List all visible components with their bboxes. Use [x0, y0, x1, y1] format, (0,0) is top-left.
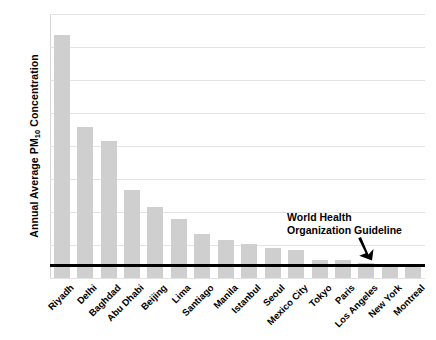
y-axis-title-suffix: Concentration — [28, 54, 40, 129]
bar — [312, 260, 328, 278]
chart-figure: Annual Average PM10 Concentration 400350… — [0, 0, 436, 340]
bar — [194, 234, 210, 278]
who-annotation-arrow-icon — [355, 236, 379, 262]
bar — [218, 240, 234, 278]
y-axis-title-prefix: Annual Average PM — [28, 138, 40, 238]
bar — [101, 141, 117, 278]
y-axis-title: Annual Average PM10 Concentration — [28, 16, 40, 276]
gridline — [50, 278, 425, 279]
y-axis-title-subscript: 10 — [33, 130, 42, 139]
who-guideline-line — [50, 264, 425, 267]
who-annotation-line1: World Health — [287, 211, 435, 224]
who-annotation-text: World Health Organization Guideline — [287, 211, 435, 237]
bar — [241, 244, 257, 278]
bar — [77, 127, 93, 278]
bar — [171, 219, 187, 278]
bar — [147, 207, 163, 278]
bar — [54, 35, 70, 278]
bar — [405, 265, 421, 278]
